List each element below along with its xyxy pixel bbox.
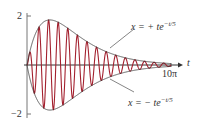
y-tick-label-neg2: −2: [11, 109, 22, 119]
lower-envelope-eq: x = − te: [128, 97, 161, 108]
upper-envelope-eq: x = + te: [131, 21, 164, 32]
x-tick-label-10pi: 10π: [162, 69, 177, 79]
y-tick-label-2: 2: [17, 11, 22, 21]
upper-envelope-label: x = + te−t/5: [131, 21, 176, 32]
lower-envelope-exp: −t/5: [161, 96, 173, 104]
lower-envelope-label: x = − te−t/5: [128, 97, 173, 108]
t-axis-arrow-icon: [178, 63, 183, 68]
x-axis-label-t: t: [187, 58, 190, 68]
upper-envelope-exp: −t/5: [164, 20, 176, 28]
lower-annotation-leader: [110, 79, 134, 92]
